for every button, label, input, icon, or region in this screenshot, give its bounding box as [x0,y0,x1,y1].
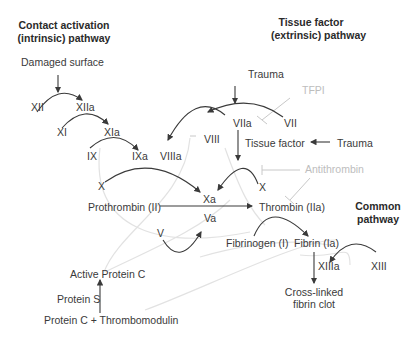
title-line: (intrinsic) pathway [12,32,116,45]
title-line: pathway [353,213,403,226]
node-viii: VIII [204,133,220,145]
node-xiia: XIIa [76,101,95,113]
v-to-va-arrow [163,232,201,252]
node-cross-linked-clot: Cross-linked fibrin clot [285,286,343,310]
fibrinogen-to-fibrin-arrow [254,217,308,236]
node-vii: VII [284,117,297,129]
title-line: (extrinsic) pathway [271,29,351,42]
node-antithrombin: Antithrombin [305,163,364,175]
node-va: Va [204,212,216,224]
node-active-protein-c: Active Protein C [70,268,145,280]
node-xiii: XIII [371,260,387,272]
node-ix: IX [87,150,97,162]
antithrombin-to-thrombin-line [290,178,310,200]
node-x-intrinsic: X [98,180,105,192]
node-x-extrinsic: X [259,181,266,193]
node-prothrombin: Prothrombin (II) [88,201,161,213]
node-fibrinogen: Fibrinogen (I) [226,237,288,249]
node-tfpi: TFPI [302,84,325,96]
xi-to-xia-arrow [62,114,108,128]
node-trauma-right: Trauma [337,137,373,149]
vii-to-viia-arrow [208,103,283,117]
node-viia: VIIa [233,117,252,129]
node-xia: XIa [104,126,120,138]
node-damaged-surface: Damaged surface [21,56,104,68]
node-tissue-factor: Tissue factor [245,137,305,149]
extrinsic-pathway-title: Tissue factor (extrinsic) pathway [271,16,351,42]
node-trauma-top: Trauma [248,68,284,80]
node-protein-s: Protein S [57,293,100,305]
node-v: V [157,227,164,239]
ix-to-ixa-arrow [90,137,138,150]
title-line: Common [353,200,403,213]
intrinsic-pathway-title: Contact activation (intrinsic) pathway [12,19,116,45]
clot-line: fibrin clot [285,298,343,310]
node-fibrin: Fibrin (Ia) [294,237,339,249]
clot-line: Cross-linked [285,286,343,298]
node-protein-c-thrombomodulin: Protein C + Thrombomodulin [44,314,178,326]
x-to-xa-extrinsic-arrow [218,168,258,190]
title-line: Tissue factor [271,16,351,29]
node-xii: XII [31,101,44,113]
common-pathway-title: Common pathway [353,200,403,226]
inhibitor-lines [190,98,310,204]
node-viiia: VIIIa [160,150,182,162]
title-line: Contact activation [12,19,116,32]
x-to-xa-arrow [105,168,200,192]
node-thrombin: Thrombin (IIa) [259,201,325,213]
node-xiiia: XIIIa [318,260,340,272]
node-xa: Xa [203,193,216,205]
node-ixa: IXa [132,150,148,162]
coagulation-cascade-diagram: Contact activation (intrinsic) pathway T… [0,0,418,341]
node-xi: XI [57,126,67,138]
